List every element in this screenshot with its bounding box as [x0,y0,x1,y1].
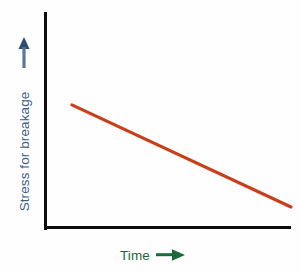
y-axis-label: Stress for breakage [17,72,32,232]
x-axis-line [44,226,291,229]
y-axis-line [44,12,47,230]
x-axis-label-group: Time [120,244,186,266]
x-axis-label: Time [120,248,150,263]
y-axis-label-group: Stress for breakage [8,36,40,216]
arrow-up-icon [16,36,32,68]
stress-decline-line [72,105,291,207]
chart-figure: Stress for breakage Time [0,0,301,274]
arrow-right-icon [156,248,186,262]
